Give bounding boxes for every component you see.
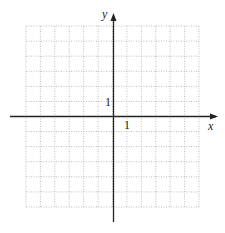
coordinate-grid: [0, 0, 225, 233]
x-tick-label: 1: [124, 119, 130, 131]
y-axis-label: y: [102, 8, 107, 20]
x-axis-label: x: [208, 120, 213, 132]
y-axis-arrow-icon: [111, 13, 117, 21]
y-tick-label: 1: [105, 96, 111, 108]
